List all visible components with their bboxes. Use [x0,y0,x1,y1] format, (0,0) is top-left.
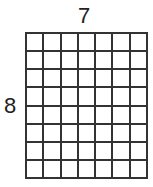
grid-cell [112,33,129,51]
grid-cell [61,160,78,178]
grid-cell [78,142,95,160]
grid-cell [130,69,147,87]
grid-cell [61,142,78,160]
grid-cell [130,106,147,124]
grid-cell [43,106,60,124]
grid-cell [95,160,112,178]
grid-cell [112,69,129,87]
grid-cell [61,106,78,124]
row-count-label: 8 [4,95,16,117]
grid-cell [95,51,112,69]
grid-cell [78,106,95,124]
grid-cell [26,69,43,87]
grid-cell [43,51,60,69]
grid-cell [61,87,78,105]
grid-cell [95,124,112,142]
grid-cell [26,106,43,124]
grid-cell [130,142,147,160]
grid-cell [78,51,95,69]
grid-array [25,32,148,179]
grid-cell [43,124,60,142]
grid-cell [78,87,95,105]
grid-cell [112,142,129,160]
grid-cell [26,142,43,160]
grid-cell [78,160,95,178]
grid-cell [61,51,78,69]
grid-cell [95,87,112,105]
column-count-label: 7 [78,5,90,27]
grid-cell [61,69,78,87]
grid-cell [43,142,60,160]
grid-cell [130,160,147,178]
grid-cell [112,160,129,178]
grid-cell [95,142,112,160]
grid-cell [26,87,43,105]
grid-cell [61,33,78,51]
grid-cell [26,33,43,51]
grid-cell [43,87,60,105]
grid-cell [130,51,147,69]
grid-cell [61,124,78,142]
grid-cell [130,124,147,142]
grid-cell [26,51,43,69]
grid-cell [112,51,129,69]
grid-cell [130,33,147,51]
grid-cell [78,33,95,51]
grid-cell [95,69,112,87]
grid-cell [43,69,60,87]
grid-cell [78,69,95,87]
grid-cell [43,160,60,178]
grid-cell [112,106,129,124]
grid-cell [43,33,60,51]
grid-cell [78,124,95,142]
grid-cell [112,87,129,105]
grid-cell [95,106,112,124]
grid-cell [95,33,112,51]
grid-cell [26,160,43,178]
grid-cell [130,87,147,105]
grid-cell [26,124,43,142]
grid-cell [112,124,129,142]
